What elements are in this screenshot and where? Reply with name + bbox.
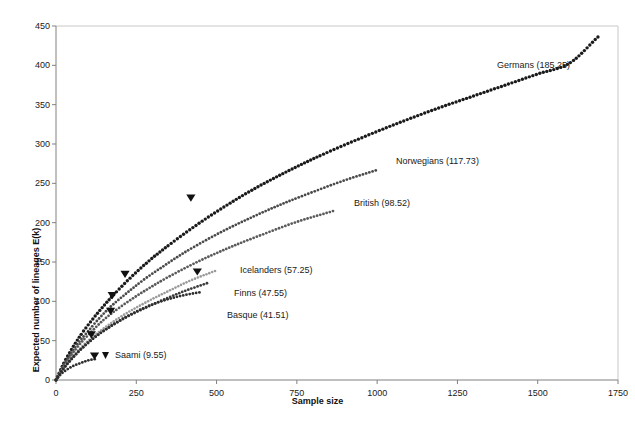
chart-canvas: 02505007501000125015001750 0501001502002… bbox=[0, 0, 635, 421]
plot-frame bbox=[56, 26, 618, 380]
series-curve-finns bbox=[55, 282, 209, 382]
y-tick-label: 350 bbox=[16, 100, 50, 110]
marker-germans bbox=[186, 194, 195, 201]
series-label-norwegians: Norwegians (117.73) bbox=[396, 156, 479, 166]
y-tick-label: 450 bbox=[16, 21, 50, 31]
y-tick-label: 400 bbox=[16, 60, 50, 70]
series-curve-germans bbox=[54, 35, 599, 381]
axis-ticks bbox=[52, 26, 618, 384]
marker-british bbox=[120, 271, 129, 278]
x-axis-title: Sample size bbox=[0, 396, 635, 406]
series-label-saami: Saami (9.55) bbox=[115, 350, 167, 360]
series-label-finns: Finns (47.55) bbox=[234, 288, 287, 298]
markers-layer bbox=[87, 194, 202, 359]
marker-icelanders bbox=[193, 268, 202, 275]
series-label-icelanders: Icelanders (57.25) bbox=[240, 265, 313, 275]
series-curve-basque bbox=[55, 291, 201, 381]
marker-pointer-saami bbox=[102, 352, 109, 359]
series-curve-norwegians bbox=[55, 169, 378, 381]
series-label-germans: Germans (185.25) bbox=[497, 60, 570, 70]
series-label-basque: Basque (41.51) bbox=[227, 310, 289, 320]
series-label-british: British (98.52) bbox=[354, 198, 410, 208]
series-layer bbox=[54, 35, 599, 381]
y-axis-title: Expected number of lineages E(k) bbox=[31, 220, 41, 380]
y-axis-title-wrap: Expected number of lineages E(k) bbox=[10, 120, 22, 280]
